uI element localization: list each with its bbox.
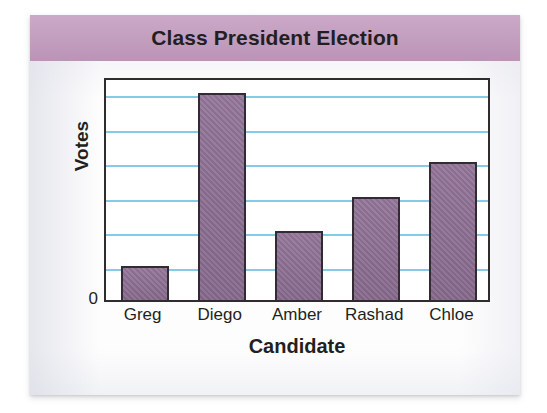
bar-rashad bbox=[352, 197, 400, 300]
bar-diego bbox=[198, 93, 246, 300]
x-tick-label-rashad: Rashad bbox=[336, 305, 413, 325]
plot-area bbox=[104, 78, 490, 302]
chart-title: Class President Election bbox=[151, 26, 399, 50]
bar-slot bbox=[260, 80, 337, 300]
x-tick-label-greg: Greg bbox=[104, 305, 181, 325]
bar-amber bbox=[275, 231, 323, 300]
chart-title-band: Class President Election bbox=[30, 15, 520, 61]
x-axis-tick-labels: GregDiegoAmberRashadChloe bbox=[104, 305, 490, 331]
bar-slot bbox=[183, 80, 260, 300]
bar-chloe bbox=[429, 162, 477, 300]
y-axis-title: Votes bbox=[71, 91, 93, 201]
x-tick-label-diego: Diego bbox=[181, 305, 258, 325]
bar-greg bbox=[121, 266, 169, 300]
bar-slot bbox=[338, 80, 415, 300]
chart-card: Class President Election Votes 0 GregDie… bbox=[30, 15, 520, 395]
x-axis-title: Candidate bbox=[104, 335, 490, 358]
bar-slot bbox=[106, 80, 183, 300]
bars-layer bbox=[106, 80, 488, 300]
x-tick-label-chloe: Chloe bbox=[413, 305, 490, 325]
x-tick-label-amber: Amber bbox=[258, 305, 335, 325]
y-axis-zero-tick-label: 0 bbox=[78, 289, 98, 309]
bar-slot bbox=[415, 80, 492, 300]
